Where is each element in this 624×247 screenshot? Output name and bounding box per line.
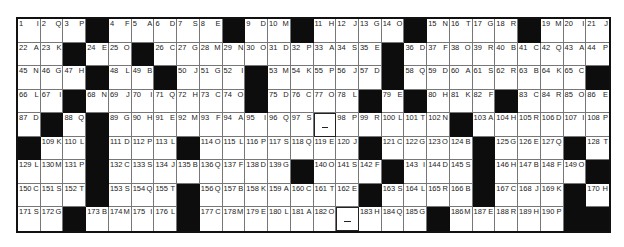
grid-cell[interactable]: 184Q — [382, 207, 405, 231]
grid-cell[interactable]: 85O — [564, 90, 587, 114]
grid-cell[interactable]: 127Q — [541, 137, 564, 161]
grid-cell[interactable]: 129L — [18, 160, 41, 184]
grid-cell[interactable]: 69J — [109, 90, 132, 114]
grid-cell[interactable]: 28M — [200, 43, 223, 67]
grid-cell[interactable]: 15N — [427, 19, 450, 43]
grid-cell[interactable]: 126E — [518, 137, 541, 161]
grid-cell[interactable]: 177C — [200, 207, 223, 231]
grid-cell[interactable]: 7S — [177, 19, 200, 43]
grid-cell[interactable]: 146H — [495, 160, 518, 184]
grid-cell[interactable]: 148F — [541, 160, 564, 184]
grid-cell[interactable]: 73C — [200, 90, 223, 114]
grid-cell[interactable]: 94A — [223, 113, 246, 137]
grid-cell[interactable]: 79E — [382, 90, 405, 114]
grid-cell[interactable]: 114O — [200, 137, 223, 161]
grid-cell[interactable]: 30O — [245, 43, 268, 67]
grid-cell[interactable]: 1I — [18, 19, 41, 43]
grid-cell[interactable]: 171S — [18, 207, 41, 231]
grid-cell[interactable]: 50J — [177, 66, 200, 90]
grid-cell[interactable]: 34S — [336, 43, 359, 67]
grid-cell[interactable]: 189H — [518, 207, 541, 231]
grid-cell[interactable]: 145S — [450, 160, 473, 184]
grid-cell[interactable]: 112P — [132, 137, 155, 161]
grid-cell[interactable]: 119E — [314, 137, 337, 161]
grid-cell[interactable]: 103A — [473, 113, 496, 137]
grid-cell[interactable]: 96Q — [268, 113, 291, 137]
grid-cell[interactable]: 61S — [473, 66, 496, 90]
grid-cell[interactable]: 178M — [223, 207, 246, 231]
grid-cell[interactable]: 13G — [359, 19, 382, 43]
grid-cell[interactable]: 54K — [291, 66, 314, 90]
grid-cell[interactable]: 142F — [359, 160, 382, 184]
grid-cell[interactable]: 181A — [291, 207, 314, 231]
grid-cell[interactable]: 24E — [86, 43, 109, 67]
grid-cell[interactable]: 53M — [268, 66, 291, 90]
grid-cell[interactable]: 115L — [223, 137, 246, 161]
grid-cell[interactable]: 74O — [223, 90, 246, 114]
grid-cell[interactable]: 137F — [223, 160, 246, 184]
grid-cell[interactable]: 91E — [154, 113, 177, 137]
grid-cell[interactable]: 36D — [404, 43, 427, 67]
grid-cell[interactable]: 132C — [109, 160, 132, 184]
grid-cell[interactable]: 59D — [427, 66, 450, 90]
grid-cell[interactable]: 37F — [427, 43, 450, 67]
grid-cell[interactable]: 49B — [132, 66, 155, 90]
grid-cell[interactable]: 35E — [359, 43, 382, 67]
grid-cell[interactable]: 118Q — [291, 137, 314, 161]
grid-cell[interactable]: 14O — [382, 19, 405, 43]
grid-cell[interactable]: 38O — [450, 43, 473, 67]
grid-cell[interactable]: 175I — [132, 207, 155, 231]
grid-cell[interactable]: 141S — [336, 160, 359, 184]
grid-cell[interactable]: 143I — [404, 160, 427, 184]
grid-cell[interactable]: 130M — [41, 160, 64, 184]
grid-cell[interactable]: 123O — [427, 137, 450, 161]
grid-cell[interactable]: 183H — [359, 207, 382, 231]
grid-cell[interactable]: 106D — [541, 113, 564, 137]
grid-cell[interactable]: 105R — [518, 113, 541, 137]
grid-cell[interactable]: 57D — [359, 66, 382, 90]
grid-cell[interactable]: 173B — [86, 207, 109, 231]
grid-cell[interactable]: 136Q — [200, 160, 223, 184]
grid-cell[interactable]: 33A — [314, 43, 337, 67]
grid-cell[interactable]: 32P — [291, 43, 314, 67]
grid-cell[interactable]: 116P — [245, 137, 268, 161]
grid-cell[interactable]: 188R — [495, 207, 518, 231]
grid-cell[interactable]: 131P — [63, 160, 86, 184]
grid-cell[interactable]: 135B — [177, 160, 200, 184]
grid-cell[interactable]: 161T — [314, 184, 337, 208]
grid-cell[interactable]: 117S — [268, 137, 291, 161]
grid-cell[interactable]: 147B — [518, 160, 541, 184]
grid-cell[interactable]: 70I — [132, 90, 155, 114]
grid-cell[interactable]: 124B — [450, 137, 473, 161]
grid-cell[interactable]: 111D — [109, 137, 132, 161]
grid-cell[interactable]: 138D — [245, 160, 268, 184]
grid-cell[interactable]: 46G — [41, 66, 64, 90]
grid-cell[interactable]: 4F — [109, 19, 132, 43]
grid-cell[interactable]: 150C — [18, 184, 41, 208]
grid-cell[interactable]: 170H — [586, 184, 609, 208]
grid-cell[interactable]: 20I — [564, 19, 587, 43]
grid-cell[interactable]: 174M — [109, 207, 132, 231]
grid-cell[interactable]: 29N — [223, 43, 246, 67]
grid-cell[interactable]: 121C — [382, 137, 405, 161]
grid-cell[interactable]: 151S — [41, 184, 64, 208]
grid-cell[interactable]: 64K — [541, 66, 564, 90]
grid-cell[interactable]: 107I — [564, 113, 587, 137]
grid-cell[interactable]: 9D — [245, 19, 268, 43]
grid-cell[interactable]: 120J — [336, 137, 359, 161]
grid-cell[interactable]: 110L — [63, 137, 86, 161]
grid-cell[interactable]: 82F — [473, 90, 496, 114]
grid-cell[interactable]: 190P — [541, 207, 564, 231]
grid-cell[interactable]: 84R — [541, 90, 564, 114]
grid-cell[interactable]: 90H — [132, 113, 155, 137]
grid-cell[interactable]: 76C — [291, 90, 314, 114]
grid-cell[interactable]: 40B — [495, 43, 518, 67]
grid-cell[interactable]: 60A — [450, 66, 473, 90]
grid-cell[interactable]: 44P — [586, 43, 609, 67]
grid-cell[interactable]: 17G — [473, 19, 496, 43]
grid-cell[interactable]: 2Q — [41, 19, 64, 43]
grid-cell[interactable]: 179E — [245, 207, 268, 231]
grid-cell[interactable]: 43A — [564, 43, 587, 67]
grid-cell[interactable]: 56J — [336, 66, 359, 90]
grid-cell[interactable]: 26C — [154, 43, 177, 67]
